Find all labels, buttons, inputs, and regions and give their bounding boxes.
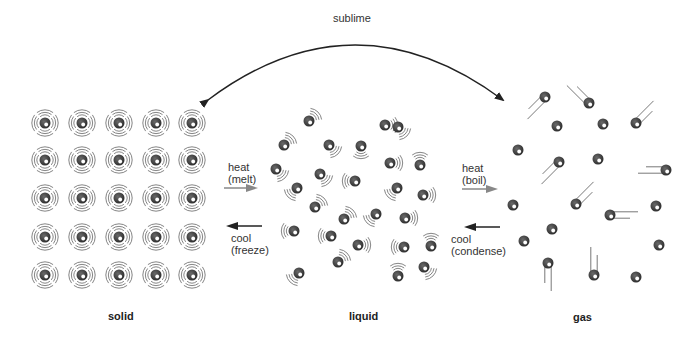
freeze-arrow <box>226 222 262 230</box>
gas-molecule <box>593 154 604 165</box>
cool-freeze-line2: (freeze) <box>231 244 269 256</box>
liquid-molecule <box>400 210 418 226</box>
gas-molecule <box>543 258 554 292</box>
liquid-molecules <box>271 108 439 285</box>
cool-condense-line2: (condense) <box>451 245 506 257</box>
solid-molecule <box>106 110 132 136</box>
liquid-molecule <box>342 173 360 189</box>
gas-molecule <box>651 201 662 212</box>
solid-molecule <box>69 262 95 288</box>
solid-molecule <box>143 185 169 211</box>
gas-molecule <box>567 86 595 109</box>
liquid-molecule <box>419 262 437 280</box>
solid-molecule <box>69 185 95 211</box>
liquid-molecule <box>412 152 428 170</box>
solid-molecules <box>32 110 205 288</box>
boil-arrow <box>462 185 498 193</box>
sublime-arrow <box>208 45 503 100</box>
liquid-molecule <box>304 108 322 126</box>
gas-molecules <box>508 86 672 292</box>
solid-molecule <box>32 110 58 136</box>
liquid-molecule <box>391 239 409 255</box>
states-of-matter-diagram: sublime heat (melt) cool (freeze) heat (… <box>0 0 697 341</box>
gas-molecule <box>631 272 642 283</box>
liquid-molecule <box>284 183 302 201</box>
solid-molecule <box>69 110 95 136</box>
solid-molecule <box>32 262 58 288</box>
gas-label: gas <box>573 311 592 323</box>
solid-molecule <box>143 224 169 250</box>
cool-condense-label: cool (condense) <box>451 233 506 257</box>
solid-molecule <box>179 262 205 288</box>
liquid-molecule <box>423 233 439 251</box>
gas-molecule <box>542 157 565 185</box>
liquid-label: liquid <box>349 310 378 322</box>
liquid-molecule <box>324 140 342 158</box>
solid-molecule <box>179 110 205 136</box>
liquid-molecule <box>281 223 299 239</box>
liquid-molecule <box>271 164 289 182</box>
solid-molecule <box>179 147 205 173</box>
gas-molecule <box>571 182 594 210</box>
heat-melt-label: heat (melt) <box>228 161 256 185</box>
liquid-molecule <box>279 132 297 150</box>
liquid-molecule <box>418 187 436 203</box>
gas-molecule <box>638 165 672 176</box>
solid-label: solid <box>108 310 134 322</box>
liquid-molecule <box>390 263 406 281</box>
solid-molecule <box>32 185 58 211</box>
solid-molecule <box>179 224 205 250</box>
cool-condense-line1: cool <box>451 233 506 245</box>
solid-molecule <box>106 262 132 288</box>
cool-freeze-line1: cool <box>231 232 269 244</box>
gas-molecule <box>519 236 530 247</box>
solid-molecule <box>106 185 132 211</box>
heat-melt-line2: (melt) <box>228 173 256 185</box>
gas-molecule <box>508 200 519 211</box>
heat-melt-line1: heat <box>228 161 256 173</box>
gas-molecule <box>528 92 551 120</box>
solid-molecule <box>143 147 169 173</box>
solid-molecule <box>32 147 58 173</box>
solid-molecule <box>69 224 95 250</box>
liquid-molecule <box>333 249 351 267</box>
solid-molecule <box>106 147 132 173</box>
liquid-molecule <box>353 237 371 253</box>
solid-molecule <box>32 224 58 250</box>
gas-molecule <box>589 247 600 281</box>
liquid-molecule <box>393 122 411 140</box>
liquid-molecule <box>310 194 328 212</box>
gas-molecule <box>598 119 609 130</box>
solid-molecule <box>143 262 169 288</box>
sublime-label: sublime <box>333 12 371 24</box>
liquid-molecule <box>363 209 381 227</box>
liquid-molecule <box>384 183 402 201</box>
solid-molecule <box>179 185 205 211</box>
heat-boil-label: heat (boil) <box>462 162 486 186</box>
liquid-molecule <box>286 268 304 286</box>
heat-boil-line2: (boil) <box>462 174 486 186</box>
liquid-molecule <box>318 228 336 244</box>
cool-freeze-label: cool (freeze) <box>231 232 269 256</box>
solid-molecule <box>143 110 169 136</box>
diagram-canvas <box>0 0 697 341</box>
gas-molecule <box>605 210 639 221</box>
gas-molecule <box>552 121 563 132</box>
gas-molecule <box>547 224 558 235</box>
liquid-molecule <box>339 206 357 224</box>
liquid-molecule <box>385 155 403 171</box>
gas-molecule <box>513 145 524 156</box>
melt-arrow <box>224 184 258 192</box>
heat-boil-line1: heat <box>462 162 486 174</box>
gas-molecule <box>631 101 654 129</box>
liquid-molecule <box>315 169 333 187</box>
liquid-molecule <box>353 141 369 159</box>
condense-arrow <box>464 223 500 231</box>
solid-molecule <box>69 147 95 173</box>
gas-molecule <box>654 240 665 251</box>
solid-molecule <box>106 224 132 250</box>
